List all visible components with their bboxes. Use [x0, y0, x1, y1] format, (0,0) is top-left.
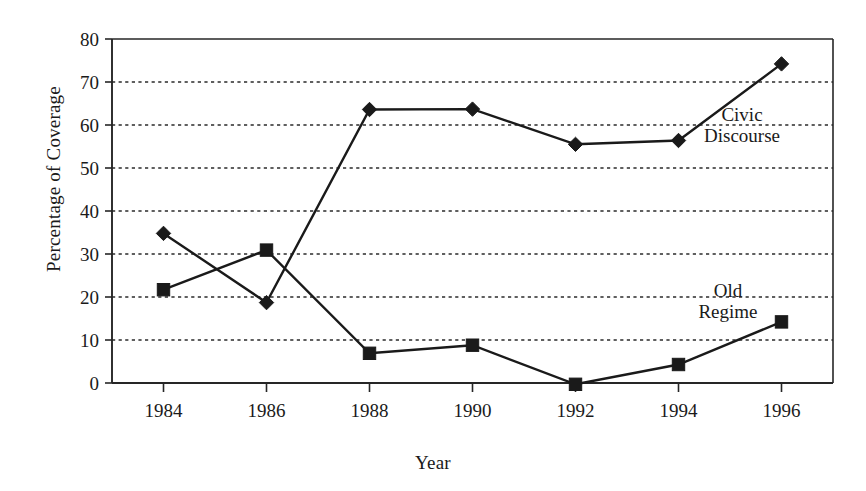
- x-tick-label: 1996: [732, 401, 832, 420]
- line-chart-figure: Percentage of Coverage Year 010203040506…: [0, 0, 866, 491]
- data-point-diamond: [362, 102, 376, 116]
- series-label-old-line1: Old: [668, 280, 788, 301]
- y-tick-label: 10: [53, 331, 99, 350]
- x-tick-label: 1984: [114, 401, 214, 420]
- series-label-old-regime: Old Regime: [668, 280, 788, 323]
- data-point-diamond: [156, 226, 170, 240]
- x-axis-title: Year: [0, 452, 866, 474]
- y-tick-label: 60: [53, 116, 99, 135]
- y-tick-label: 30: [53, 245, 99, 264]
- data-point-square: [672, 358, 684, 370]
- y-tick-label: 80: [53, 30, 99, 49]
- x-tick-marks-group: [164, 383, 782, 392]
- x-tick-label: 1988: [320, 401, 420, 420]
- y-tick-marks-group: [105, 39, 112, 383]
- y-tick-label: 20: [53, 288, 99, 307]
- y-tick-label: 50: [53, 159, 99, 178]
- x-tick-label: 1992: [526, 401, 626, 420]
- y-tick-label: 0: [53, 374, 99, 393]
- data-point-square: [466, 339, 478, 351]
- data-point-square: [157, 284, 169, 296]
- data-point-square: [569, 378, 581, 390]
- data-point-diamond: [568, 137, 582, 151]
- y-tick-label: 40: [53, 202, 99, 221]
- y-tick-label: 70: [53, 73, 99, 92]
- data-point-diamond: [465, 102, 479, 116]
- series-label-old-line2: Regime: [668, 301, 788, 322]
- data-point-square: [363, 347, 375, 359]
- series-label-civic-line2: Discourse: [682, 125, 802, 146]
- series-label-civic-line1: Civic: [682, 104, 802, 125]
- data-point-square: [260, 244, 272, 256]
- series-line-civic-discourse: [164, 64, 782, 303]
- x-tick-label: 1994: [629, 401, 729, 420]
- x-tick-label: 1990: [423, 401, 523, 420]
- x-tick-label: 1986: [217, 401, 317, 420]
- series-label-civic-discourse: Civic Discourse: [682, 104, 802, 147]
